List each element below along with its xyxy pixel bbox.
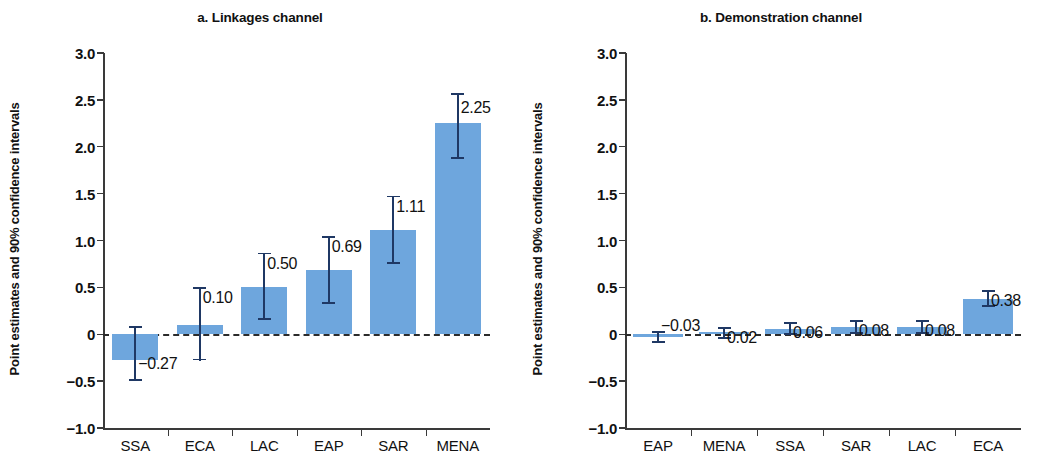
error-bar-cap-upper xyxy=(129,326,142,328)
y-axis xyxy=(103,53,105,430)
error-bar-ssa xyxy=(134,326,136,381)
error-bar-cap-lower xyxy=(322,302,335,304)
value-label-mena: 2.25 xyxy=(461,99,491,117)
y-axis-tick-label: −0.5 xyxy=(569,373,617,390)
y-axis-tick xyxy=(97,287,104,288)
error-bar-cap-lower xyxy=(258,318,271,320)
y-axis-tick xyxy=(619,380,626,381)
x-axis-label-ssa: SSA xyxy=(103,437,168,454)
x-axis-label-lac: LAC xyxy=(232,437,297,454)
x-axis-tick xyxy=(889,429,890,436)
y-axis-tick xyxy=(97,427,104,428)
panel-linkages-channel: a. Linkages channel Point estimates and … xyxy=(0,0,520,457)
y-axis-tick xyxy=(97,240,104,241)
y-axis-tick-label: 3.0 xyxy=(47,45,95,62)
zero-reference-line xyxy=(103,334,490,336)
x-axis-label-mena: MENA xyxy=(691,437,757,454)
value-label-ssa: −0.27 xyxy=(138,355,177,373)
x-axis-label-mena: MENA xyxy=(426,437,491,454)
y-axis-tick-label: 2.5 xyxy=(47,91,95,108)
x-axis-label-eca: ECA xyxy=(955,437,1021,454)
x-axis-tick xyxy=(168,429,169,436)
y-axis-tick xyxy=(619,146,626,147)
x-axis-label-sar: SAR xyxy=(361,437,426,454)
y-axis-tick xyxy=(619,99,626,100)
y-axis-tick-label: −0.5 xyxy=(47,373,95,390)
plot-area: 3.02.52.01.51.00.50−0.5−1.0−0.03EAP0.02M… xyxy=(521,0,1027,457)
error-bar-cap-lower xyxy=(193,359,206,361)
error-bar-cap-lower xyxy=(387,262,400,264)
error-bar-cap-lower xyxy=(129,379,142,381)
value-label-sar: 1.11 xyxy=(396,198,425,216)
value-label-eap: 0.69 xyxy=(332,238,362,256)
y-axis-tick-label: 0.5 xyxy=(47,279,95,296)
y-axis-tick xyxy=(619,427,626,428)
error-bar-cap-lower xyxy=(451,157,464,159)
error-bar-sar xyxy=(392,196,394,264)
error-bar-eap xyxy=(328,236,330,304)
x-axis-tick xyxy=(691,429,692,436)
x-axis-tick xyxy=(426,429,427,436)
y-axis-tick-label: −1.0 xyxy=(47,420,95,437)
y-axis-tick xyxy=(619,52,626,53)
y-axis-tick xyxy=(619,287,626,288)
y-axis xyxy=(625,53,627,430)
value-label-mena: 0.02 xyxy=(727,329,757,347)
y-axis-tick-label: 1.5 xyxy=(569,185,617,202)
y-axis-tick xyxy=(619,193,626,194)
value-label-eca: 0.38 xyxy=(991,292,1021,310)
error-bar-eca xyxy=(199,287,201,360)
y-axis-tick-label: 0 xyxy=(569,326,617,343)
error-bar-mena xyxy=(457,93,459,159)
y-axis-tick xyxy=(619,240,626,241)
x-axis-tick xyxy=(297,429,298,436)
x-axis-tick xyxy=(955,429,956,436)
figure-two-panel-bar-chart: a. Linkages channel Point estimates and … xyxy=(0,0,1041,457)
value-label-lac: 0.08 xyxy=(925,322,955,340)
y-axis-tick-label: 1.5 xyxy=(47,185,95,202)
y-axis-tick xyxy=(97,99,104,100)
x-axis-tick xyxy=(232,429,233,436)
value-label-sar: 0.08 xyxy=(859,322,889,340)
x-axis-tick xyxy=(757,429,758,436)
x-axis-label-lac: LAC xyxy=(889,437,955,454)
value-label-lac: 0.50 xyxy=(267,255,297,273)
y-axis-tick-label: 3.0 xyxy=(569,45,617,62)
y-axis-tick xyxy=(97,146,104,147)
y-axis-tick xyxy=(97,193,104,194)
x-axis-label-sar: SAR xyxy=(823,437,889,454)
y-axis-tick xyxy=(97,380,104,381)
y-axis-tick-label: 1.0 xyxy=(569,232,617,249)
x-axis-label-eca: ECA xyxy=(168,437,233,454)
value-label-ssa: 0.06 xyxy=(793,324,823,342)
y-axis-tick-label: 2.5 xyxy=(569,91,617,108)
y-axis-tick-label: 0.5 xyxy=(569,279,617,296)
x-axis-label-eap: EAP xyxy=(297,437,362,454)
value-label-eap: −0.03 xyxy=(661,317,700,335)
y-axis-tick-label: 1.0 xyxy=(47,232,95,249)
x-axis-tick xyxy=(823,429,824,436)
error-bar-cap-lower xyxy=(652,341,665,343)
x-axis-label-ssa: SSA xyxy=(757,437,823,454)
value-label-eca: 0.10 xyxy=(203,289,233,307)
y-axis-tick-label: 2.0 xyxy=(569,138,617,155)
y-axis-tick xyxy=(97,52,104,53)
error-bar-cap-upper xyxy=(451,93,464,95)
error-bar-lac xyxy=(263,253,265,321)
plot-area: 3.02.52.01.51.00.50−0.5−1.0−0.27SSA0.10E… xyxy=(0,0,496,457)
panel-demonstration-channel: b. Demonstration channel Point estimates… xyxy=(521,0,1041,457)
y-axis-tick-label: 2.0 xyxy=(47,138,95,155)
x-axis-label-eap: EAP xyxy=(625,437,691,454)
x-axis-tick xyxy=(361,429,362,436)
y-axis-tick-label: −1.0 xyxy=(569,420,617,437)
y-axis-tick-label: 0 xyxy=(47,326,95,343)
